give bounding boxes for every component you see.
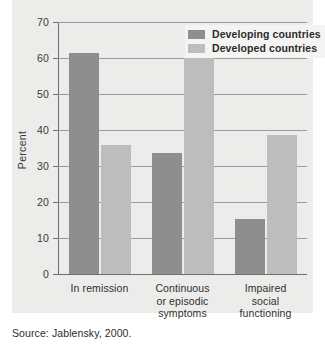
legend-swatch-icon-developed <box>188 44 205 53</box>
x-axis-line <box>58 274 307 275</box>
y-axis-tick <box>53 58 58 59</box>
y-axis-tick-label: 0 <box>43 268 49 280</box>
y-axis-tick <box>53 130 58 131</box>
y-axis-tick <box>53 202 58 203</box>
y-axis-tick-label: 10 <box>37 232 49 244</box>
gridline <box>58 22 307 23</box>
legend-swatch-icon-developing <box>188 30 205 39</box>
y-axis-tick <box>53 166 58 167</box>
y-axis-tick <box>53 22 58 23</box>
y-axis-tick <box>53 94 58 95</box>
chart-legend: Developing countries Developed countries <box>185 25 325 58</box>
x-axis-category-label: In remission <box>71 282 129 295</box>
y-axis-tick-label: 60 <box>37 52 49 64</box>
bar <box>101 145 131 274</box>
y-axis-title: Percent <box>16 131 28 169</box>
x-axis-category-label: Continuous or episodic symptoms <box>155 282 209 320</box>
y-axis-tick-label: 30 <box>37 160 49 172</box>
bar <box>69 53 99 274</box>
bar <box>267 135 297 274</box>
y-axis-tick <box>53 238 58 239</box>
bar <box>184 58 214 274</box>
y-axis-tick-label: 70 <box>37 16 49 28</box>
y-axis-tick-label: 50 <box>37 88 49 100</box>
bar <box>152 153 182 274</box>
y-axis-tick-label: 20 <box>37 196 49 208</box>
legend-item-developed: Developed countries <box>188 41 321 55</box>
legend-label-developed: Developed countries <box>212 42 317 54</box>
plot-area: 010203040506070In remissionContinuous or… <box>58 22 307 275</box>
bar <box>235 219 265 274</box>
y-axis-tick <box>53 274 58 275</box>
y-axis-tick-label: 40 <box>37 124 49 136</box>
legend-item-developing: Developing countries <box>188 27 321 41</box>
source-caption: Source: Jablensky, 2000. <box>12 327 132 339</box>
legend-label-developing: Developing countries <box>212 28 321 40</box>
x-axis-category-label: Impaired social functioning <box>240 282 292 320</box>
